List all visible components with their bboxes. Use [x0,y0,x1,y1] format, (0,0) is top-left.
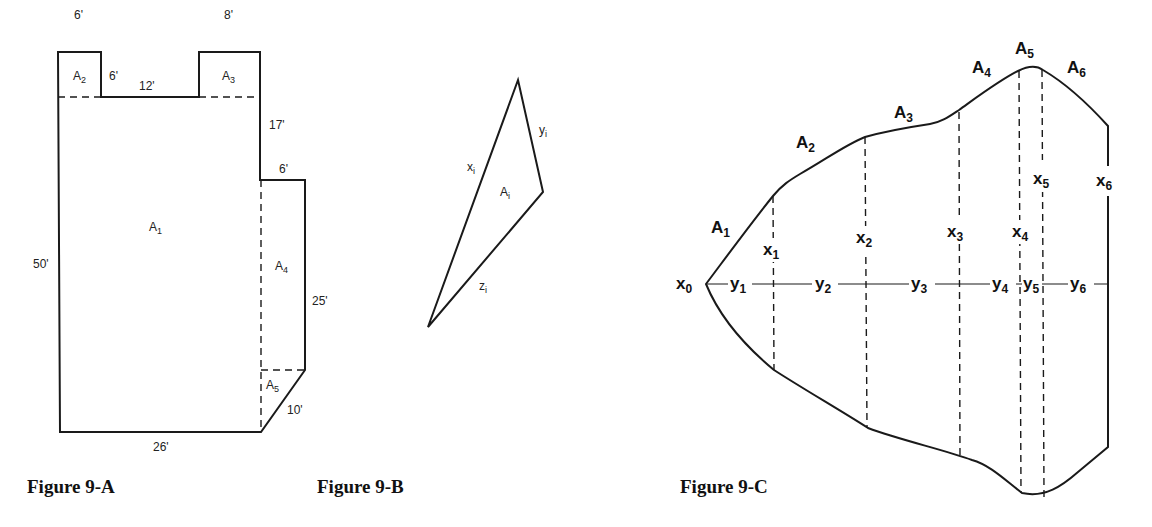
offset-x3-line [959,112,960,460]
figures-canvas: 6' 6' 12' 8' 17' 6' 50' 25' 10' 26' A2 A… [0,0,1152,527]
area-a5: A5 [1015,39,1034,61]
area-a3: A3 [222,69,235,85]
caption-9b: Figure 9-B [317,476,404,497]
dim-top-right: 8' [224,8,233,22]
area-a5: A5 [266,378,279,394]
dim-left-height: 50' [33,257,49,271]
dim-notch-width: 12' [139,79,155,93]
offset-x2-line [865,137,867,428]
area-ai-label: Ai [500,185,510,201]
area-a2: A2 [73,69,86,85]
caption-9c: Figure 9-C [680,476,768,497]
caption-9a: Figure 9-A [27,476,115,497]
dim-right-lower: 25' [312,294,328,308]
side-z-label: zi [479,279,487,295]
area-a1: A1 [711,218,730,240]
area-a4: A4 [972,58,991,80]
dim-right-upper: 17' [269,118,285,132]
offset-x4-line [1019,71,1021,493]
area-a1: A1 [149,220,162,236]
figure-9c: A1 A2 A3 A4 A5 A6 x0 x1 x2 x3 x4 x5 x6 y… [674,39,1122,497]
area-a6: A6 [1067,58,1086,80]
side-y-label: yi [539,123,547,139]
offset-x1-line [773,196,774,370]
side-x-label: xi [467,160,475,176]
area-a3: A3 [894,103,913,125]
area-a2: A2 [796,133,815,155]
dim-top-left: 6' [74,8,83,22]
irregular-outline [706,67,1108,494]
dim-notch-depth: 6' [109,69,118,83]
area-a4: A4 [275,259,288,275]
figure-9a: 6' 6' 12' 8' 17' 6' 50' 25' 10' 26' A2 A… [27,8,328,497]
floor-plan-outline [58,52,305,432]
dim-diagonal: 10' [287,403,303,417]
dim-bottom: 26' [153,440,169,454]
dim-step: 6' [279,162,288,176]
figure-9b: xi yi zi Ai Figure 9-B [317,80,547,497]
